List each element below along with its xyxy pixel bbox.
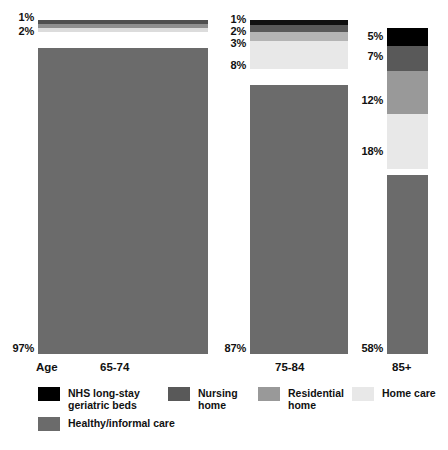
label-nhs-85-plus: 5% [355,31,383,42]
segment-nhs-85-plus [387,28,428,46]
segment-residential-home-care-65-74 [38,28,208,32]
label-nursing-85-plus: 7% [355,51,383,62]
column-85-plus: 5% 7% 12% 18% 58% [387,0,428,372]
legend-swatch-residential-icon [258,387,280,401]
legend-label-nhs: NHS long-stay geriatric beds [68,387,140,411]
label-home-care-75-84: 8% [218,60,246,71]
label-nhs-65-74: 1% [6,12,34,23]
segment-healthy-85-plus [387,175,428,354]
label-nursing-65-74: 2% [6,26,34,37]
axis-tick-85-plus: 85+ [392,361,412,373]
axis-tick-65-74: 65-74 [100,361,129,373]
legend-item-healthy: Healthy/informal care [38,417,175,431]
legend-item-home-care: Home care [352,387,436,401]
segment-nursing-85-plus [387,46,428,71]
label-residential-85-plus: 12% [351,95,383,106]
label-healthy-85-plus: 58% [353,343,383,354]
axis-title-age: Age [36,361,58,373]
label-healthy-75-84: 87% [216,343,246,354]
stacked-bar-chart: 1% 2% 97% 1% 2% 3% 8% 87% [0,0,448,450]
legend-swatch-healthy-icon [38,417,60,431]
label-healthy-65-74: 97% [4,343,34,354]
chart-legend: NHS long-stay geriatric beds Nursing hom… [0,383,448,450]
segment-home-care-85-plus [387,114,428,169]
label-home-care-85-plus: 18% [351,146,383,157]
legend-item-nhs: NHS long-stay geriatric beds [38,387,140,411]
segment-healthy-75-84 [250,85,348,354]
legend-label-nursing: Nursing home [198,387,238,411]
label-nhs-75-84: 1% [218,14,246,25]
column-75-84: 1% 2% 3% 8% 87% [250,0,348,372]
label-nursing-75-84: 2% [218,26,246,37]
plot-area: 1% 2% 97% 1% 2% 3% 8% 87% [0,0,448,372]
legend-swatch-nhs-icon [38,387,60,401]
legend-label-residential: Residential home [288,387,344,411]
legend-swatch-home-care-icon [352,387,374,401]
segment-nursing-75-84 [250,25,348,32]
legend-item-residential: Residential home [258,387,344,411]
column-65-74: 1% 2% 97% [38,0,208,372]
segment-residential-85-plus [387,71,428,114]
segment-residential-75-84 [250,32,348,41]
legend-label-healthy: Healthy/informal care [68,417,175,429]
legend-item-nursing: Nursing home [168,387,238,411]
legend-swatch-nursing-icon [168,387,190,401]
segment-healthy-65-74 [38,48,208,354]
legend-label-home-care: Home care [382,387,436,399]
axis-tick-75-84: 75-84 [275,361,304,373]
label-residential-75-84: 3% [218,38,246,49]
segment-home-care-75-84 [250,41,348,69]
